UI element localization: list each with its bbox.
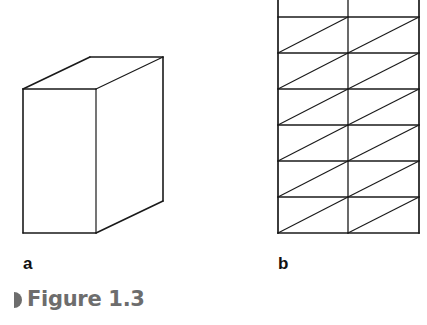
grid-diagonal-line <box>278 53 348 89</box>
grid-diagonal-line <box>348 89 419 125</box>
caption-marker-icon <box>14 292 22 308</box>
box-edge <box>96 57 163 89</box>
triangulated-grid-diagram <box>278 0 419 233</box>
panel-label-b: b <box>278 255 288 272</box>
grid-diagonal-line <box>348 197 419 233</box>
box-edge <box>96 201 163 233</box>
oblique-box-diagram <box>23 57 163 233</box>
grid-diagonal-line <box>348 17 419 53</box>
grid-diagonal-line <box>348 125 419 161</box>
grid-diagonal-line <box>278 197 348 233</box>
grid-diagonal-line <box>348 161 419 197</box>
grid-diagonal-line <box>278 125 348 161</box>
figure-caption: Figure 1.3 <box>14 289 145 310</box>
grid-diagonal-line <box>348 53 419 89</box>
grid-diagonal-line <box>278 161 348 197</box>
grid-diagonal-line <box>278 89 348 125</box>
caption-text: Figure 1.3 <box>27 289 145 310</box>
grid-diagonal-line <box>278 17 348 53</box>
box-edge <box>23 57 90 89</box>
panel-label-a: a <box>23 255 32 272</box>
figure-canvas <box>0 0 427 325</box>
